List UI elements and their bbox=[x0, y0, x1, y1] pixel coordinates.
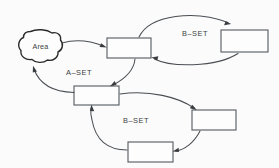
edge-top-right-to-top-center bbox=[155, 54, 239, 65]
edge-area-to-top-center-arrowhead bbox=[100, 43, 107, 47]
box-top-center[interactable] bbox=[107, 38, 151, 58]
edge-top-right-to-top-center-arrowhead bbox=[151, 56, 158, 60]
label-b-set-top: B–SET bbox=[182, 29, 208, 38]
edge-bottom-center-to-middle-left bbox=[91, 108, 127, 150]
edge-area-to-top-center bbox=[62, 41, 104, 46]
box-middle-left[interactable] bbox=[74, 86, 119, 105]
edge-bottom-right-to-bottom-center-arrowhead bbox=[173, 148, 179, 152]
edge-top-center-to-middle-left bbox=[113, 59, 135, 85]
box-bottom-center[interactable] bbox=[128, 142, 173, 162]
edge-middle-left-to-bottom-right bbox=[120, 93, 194, 108]
box-bottom-right[interactable] bbox=[192, 110, 236, 130]
label-a-set: A–SET bbox=[66, 68, 92, 77]
edge-bottom-right-to-bottom-center bbox=[176, 131, 200, 151]
edge-middle-left-to-area-arrowhead bbox=[33, 66, 37, 73]
flow-diagram: Area bbox=[0, 0, 279, 168]
diagram-canvas: Area bbox=[0, 0, 279, 168]
area-blob-label: Area bbox=[33, 42, 49, 51]
label-b-set-bottom: B–SET bbox=[123, 116, 149, 125]
box-top-right[interactable] bbox=[221, 30, 268, 52]
